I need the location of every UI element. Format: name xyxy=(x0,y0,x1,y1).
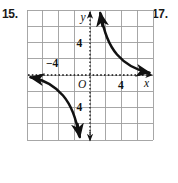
x-tick-label-negative: −4 xyxy=(46,57,59,69)
hyperbola-graph-figure: y x O 4 4 4 −4 xyxy=(16,4,162,150)
graph-canvas: y x O 4 4 4 −4 xyxy=(16,4,162,150)
figure-page: 15. 17. xyxy=(0,0,178,183)
y-tick-label-negative: 4 xyxy=(77,101,83,113)
y-tick-label-positive: 4 xyxy=(77,37,83,49)
y-axis-label: y xyxy=(80,11,87,24)
x-tick-label-positive: 4 xyxy=(118,79,124,91)
origin-label: O xyxy=(78,78,87,90)
x-axis-label: x xyxy=(143,77,150,89)
